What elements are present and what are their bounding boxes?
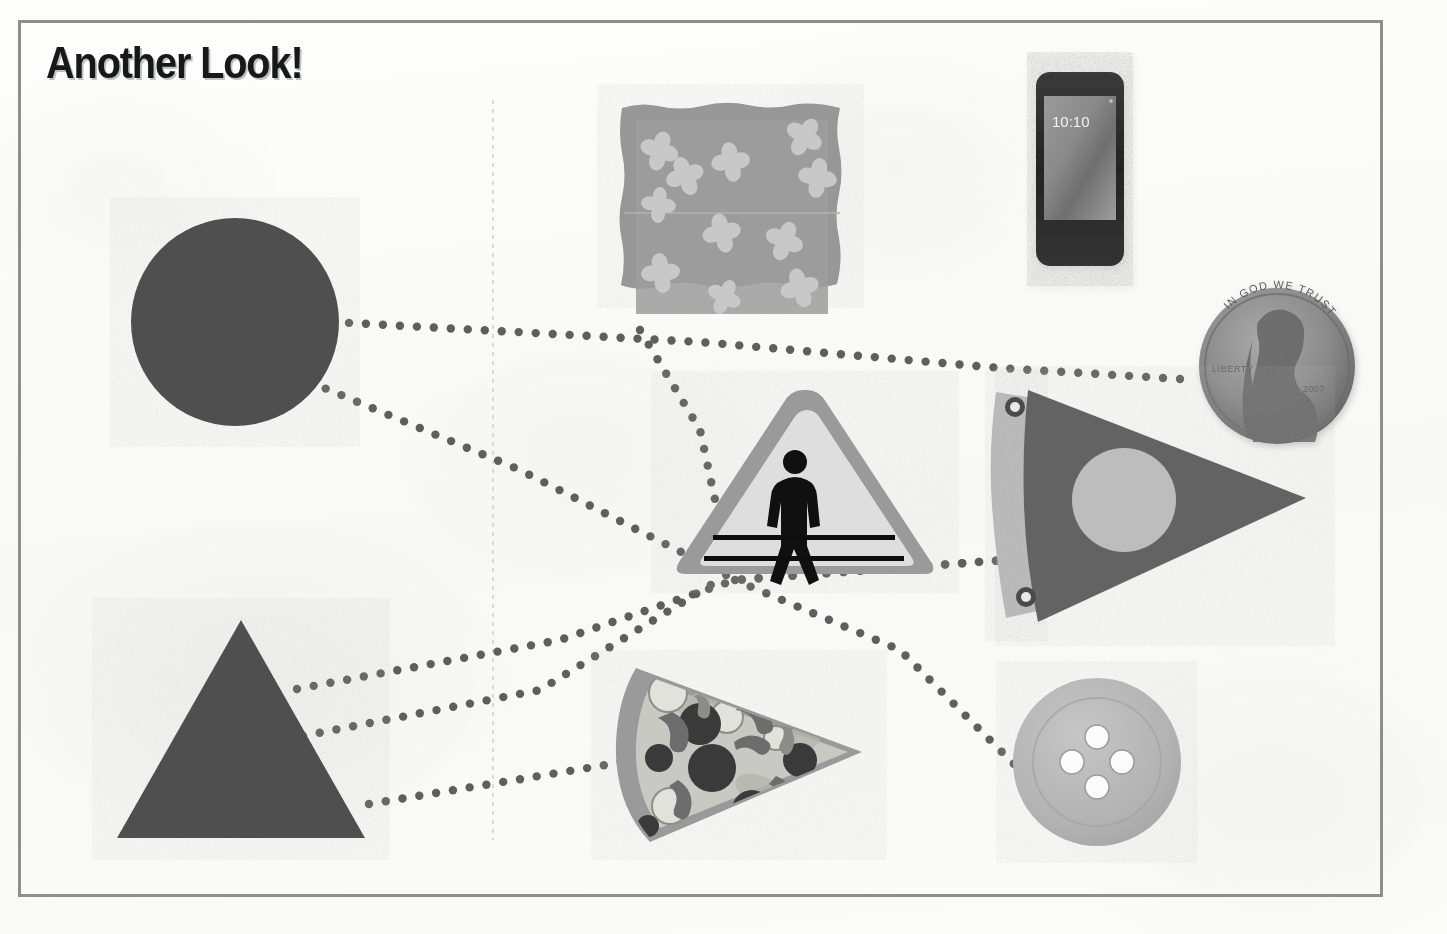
object-napkin — [620, 103, 842, 321]
penny-liberty-label: LIBERTY — [1212, 364, 1254, 374]
pizza-toppings — [637, 674, 821, 837]
shape-triangle — [117, 620, 365, 838]
object-crossing-sign — [677, 390, 934, 585]
matching-line-circle-to-penny — [328, 318, 1184, 383]
object-pizza-slice — [616, 668, 862, 842]
phone-clock-label: 10:10 — [1052, 113, 1090, 130]
object-button — [1013, 678, 1181, 846]
object-penny: IN GOD WE TRUST LIBERTY 2007 — [1199, 278, 1355, 444]
phone-sensor-icon — [1109, 99, 1113, 103]
shape-circle — [131, 218, 339, 426]
object-phone: 10:10 — [1036, 72, 1124, 266]
worksheet-canvas: 10:10 IN GOD WE TRUST LIBERTY 2007 — [0, 0, 1447, 934]
penny-date-label: 2007 — [1303, 384, 1325, 394]
matching-line-triangle-to-pizza — [365, 754, 642, 808]
